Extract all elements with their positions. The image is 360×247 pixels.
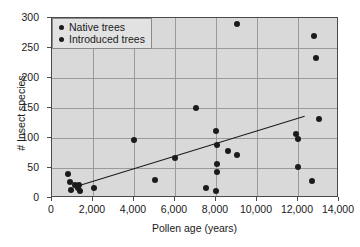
data-point <box>295 164 301 170</box>
x-axis-label: Pollen age (years) <box>51 222 338 234</box>
legend: Native trees Introduced trees <box>52 18 152 49</box>
data-point <box>172 155 178 161</box>
x-tick-mark <box>92 197 93 201</box>
data-point <box>77 188 83 194</box>
y-tick-label: 0 <box>33 191 39 203</box>
data-point <box>225 148 231 154</box>
y-tick-label: 50 <box>27 161 39 173</box>
x-tick-label: 0 <box>48 203 54 215</box>
data-point <box>91 185 97 191</box>
data-point <box>313 55 319 61</box>
x-tick-label: 6,000 <box>161 203 187 215</box>
x-tick-label: 10,000 <box>240 203 272 215</box>
filled-circle-icon <box>59 25 64 30</box>
x-axis: 02,0004,0006,0008,00010,00012,00014,000 <box>51 197 338 223</box>
x-tick-mark <box>297 197 298 201</box>
data-point <box>193 105 199 111</box>
scatter-chart-figure: 050100150200250300 Native trees Introduc… <box>0 0 360 247</box>
data-point <box>311 33 317 39</box>
x-tick-mark <box>174 197 175 201</box>
x-tick-label: 2,000 <box>79 203 105 215</box>
y-axis-label: # Insect species <box>15 48 27 178</box>
data-point <box>316 116 322 122</box>
x-tick-label: 8,000 <box>202 203 228 215</box>
legend-item-native-trees: Native trees <box>57 21 145 33</box>
data-point <box>203 185 209 191</box>
data-point <box>234 21 240 27</box>
x-tick-label: 12,000 <box>281 203 313 215</box>
x-tick-mark <box>215 197 216 201</box>
data-point <box>131 137 137 143</box>
data-point <box>295 136 301 142</box>
legend-item-introduced-trees: Introduced trees <box>57 33 145 45</box>
y-tick-label: 300 <box>21 11 39 23</box>
data-point <box>214 161 220 167</box>
data-point <box>213 188 219 194</box>
data-point <box>65 171 71 177</box>
data-point <box>234 152 240 158</box>
x-tick-mark <box>51 197 52 201</box>
data-point <box>213 128 219 134</box>
legend-label-introduced-trees: Introduced trees <box>69 33 145 45</box>
data-point <box>152 177 158 183</box>
x-tick-mark <box>338 197 339 201</box>
data-point <box>214 142 220 148</box>
x-tick-mark <box>133 197 134 201</box>
x-tick-mark <box>256 197 257 201</box>
filled-circle-icon <box>59 37 64 42</box>
data-point <box>214 169 220 175</box>
x-tick-label: 14,000 <box>322 203 354 215</box>
x-tick-label: 4,000 <box>120 203 146 215</box>
data-point <box>309 178 315 184</box>
legend-label-native-trees: Native trees <box>69 21 125 33</box>
